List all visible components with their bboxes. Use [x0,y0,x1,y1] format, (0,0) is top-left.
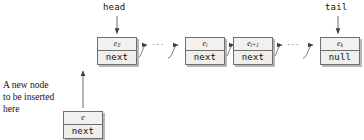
node-ek-value: ek [321,38,359,51]
node-ek: ek null [320,37,360,65]
node-ei-value: ei [186,38,224,51]
node-ei1: ei+1 next [233,37,273,65]
node-ei: ei next [185,37,225,65]
node-ei-value-subscript: i [206,43,208,49]
node-ei-link: next [186,51,224,64]
node-new-link: next [64,125,102,138]
connector-layer [0,0,364,140]
linked-list-diagram: head tail ··· ··· e0 next ei next ei+1 n… [0,0,364,140]
ellipsis-second: ··· [287,39,300,49]
link-ei1-to-ellipsis [272,45,282,58]
node-ek-value-subscript: k [341,43,343,49]
node-ei1-link: next [234,51,272,64]
caption-line-2: to be inserted [3,91,54,104]
node-ei1-value: ei+1 [234,38,272,51]
caption-line-1: A new node [3,79,48,92]
head-pointer-label: head [103,2,125,12]
tail-pointer-label: tail [325,2,347,12]
node-e0: e0 next [97,37,137,65]
node-e0-value: e0 [98,38,136,51]
node-ei1-value-subscript: i+1 [251,43,259,49]
node-new-value: e [64,112,102,125]
node-e0-link: next [98,51,136,64]
caption-line-3: here [3,103,19,116]
node-new: e next [63,111,103,139]
node-ek-link: null [321,51,359,64]
link-ellipsis-to-ei [168,45,178,58]
node-e0-value-subscript: 0 [117,43,120,49]
node-new-value-letter: e [81,114,85,122]
ellipsis-first: ··· [152,39,165,49]
link-e0-to-ellipsis [137,45,147,58]
link-ellipsis-to-ek [303,45,313,58]
